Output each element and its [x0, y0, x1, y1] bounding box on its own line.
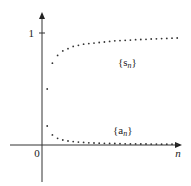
data-point	[57, 137, 59, 139]
series-a-label: {an}	[113, 124, 132, 138]
data-point	[52, 134, 54, 136]
data-point	[171, 143, 173, 145]
y-axis-arrow-icon	[39, 12, 45, 19]
data-point	[46, 125, 48, 127]
data-point	[109, 143, 111, 145]
data-point	[62, 50, 64, 52]
data-point	[150, 143, 152, 145]
data-point	[161, 143, 163, 145]
series-s-points	[46, 37, 178, 90]
data-point	[104, 41, 106, 43]
data-point	[67, 48, 69, 50]
data-point	[130, 143, 132, 145]
x-axis-label: n	[175, 147, 181, 159]
data-point	[93, 142, 95, 144]
sequence-chart: 1 0 n {sn} {an}	[0, 0, 191, 186]
y-tick-label: 1	[29, 27, 35, 39]
data-point	[166, 38, 168, 40]
data-point	[119, 40, 121, 42]
data-point	[176, 143, 178, 145]
data-point	[145, 38, 147, 40]
data-point	[72, 46, 74, 48]
data-point	[135, 143, 137, 145]
data-point	[145, 143, 147, 145]
data-point	[88, 142, 90, 144]
data-point	[150, 38, 152, 40]
data-point	[156, 143, 158, 145]
data-point	[140, 143, 142, 145]
data-point	[135, 39, 137, 41]
data-point	[93, 42, 95, 44]
origin-label: 0	[34, 147, 40, 159]
data-point	[156, 38, 158, 40]
data-point	[98, 42, 100, 44]
data-point	[46, 88, 48, 90]
data-point	[109, 41, 111, 43]
data-point	[119, 143, 121, 145]
data-point	[171, 37, 173, 39]
data-point	[140, 39, 142, 41]
series-s-label: {sn}	[118, 56, 137, 70]
data-point	[98, 142, 100, 144]
data-point	[67, 140, 69, 142]
data-point	[83, 43, 85, 45]
data-point	[124, 39, 126, 41]
data-point	[52, 62, 54, 64]
data-point	[72, 141, 74, 143]
data-point	[130, 39, 132, 41]
data-point	[114, 143, 116, 145]
data-point	[78, 44, 80, 46]
data-point	[176, 37, 178, 39]
data-point	[83, 142, 85, 144]
data-point	[114, 40, 116, 42]
data-point	[161, 38, 163, 40]
data-point	[78, 141, 80, 143]
data-point	[57, 55, 59, 57]
data-point	[88, 43, 90, 45]
data-point	[62, 139, 64, 141]
data-point	[124, 143, 126, 145]
data-point	[166, 143, 168, 145]
y-axis	[39, 12, 45, 182]
data-point	[104, 142, 106, 144]
